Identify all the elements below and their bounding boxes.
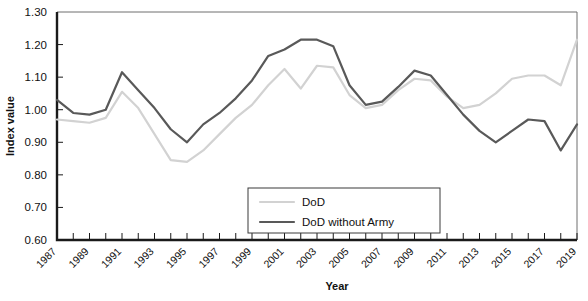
x-tick-label: 1989 (66, 245, 91, 270)
x-tick-label: 2015 (488, 245, 513, 270)
y-tick-label: 0.90 (25, 136, 47, 148)
x-tick-label: 2013 (456, 245, 481, 270)
x-tick-label: 1987 (33, 245, 58, 270)
x-tick-label: 2009 (391, 245, 416, 270)
series-line-dod (57, 40, 577, 162)
y-axis-title: Index value (4, 96, 16, 156)
y-tick-label: 0.80 (25, 169, 47, 181)
x-axis-tick-labels: 1987198919911993199519971999200120032005… (33, 245, 578, 270)
x-tick-label: 2007 (358, 245, 383, 270)
x-tick-label: 2005 (326, 245, 351, 270)
y-tick-label: 1.30 (25, 6, 47, 18)
y-tick-label: 1.00 (25, 104, 47, 116)
x-tick-label: 1993 (131, 245, 156, 270)
legend-label-1: DoD without Army (302, 216, 394, 228)
x-tick-label: 2017 (521, 245, 546, 270)
x-tick-label: 2011 (424, 245, 449, 270)
y-tick-label: 0.60 (25, 234, 47, 246)
series-layer (57, 40, 577, 162)
x-tick-label: 1991 (98, 245, 123, 270)
x-tick-label: 1999 (228, 245, 253, 270)
y-tick-label: 1.10 (25, 71, 47, 83)
chart-legend: DoDDoD without Army (248, 188, 440, 233)
chart-figure: 0.600.700.800.901.001.101.201.30 1987198… (0, 0, 588, 301)
x-tick-label: 2003 (293, 245, 318, 270)
x-tick-label: 1995 (163, 245, 188, 270)
series-line-dod-without-army (57, 40, 577, 151)
y-tick-label: 1.20 (25, 39, 47, 51)
y-axis-tick-labels: 0.600.700.800.901.001.101.201.30 (25, 6, 47, 246)
line-chart: 0.600.700.800.901.001.101.201.30 1987198… (0, 0, 588, 301)
x-tick-label: 2019 (553, 245, 578, 270)
x-axis-title: Year (325, 280, 349, 292)
y-tick-label: 0.70 (25, 201, 47, 213)
x-tick-label: 2001 (261, 245, 286, 270)
legend-label-0: DoD (302, 196, 325, 208)
x-tick-label: 1997 (196, 245, 221, 270)
